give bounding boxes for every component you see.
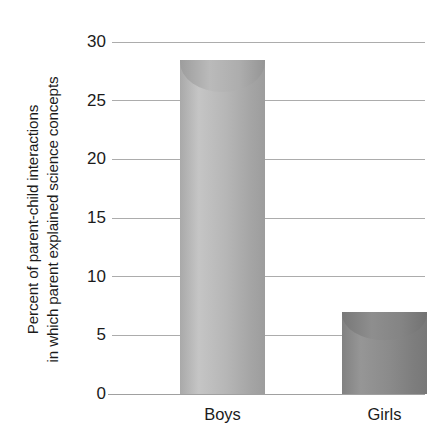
bar-shape: [342, 312, 427, 394]
y-tick-label: 25: [80, 92, 106, 109]
x-label-boys: Boys: [180, 404, 265, 424]
bar-boys: [180, 60, 265, 394]
gridline: [112, 218, 425, 219]
y-tick-label: 0: [80, 385, 106, 402]
gridline: [112, 100, 425, 101]
y-tick-label: 30: [80, 33, 106, 50]
gridline: [112, 159, 425, 160]
y-axis-title-line-2: in which parent explained science concep…: [43, 77, 62, 363]
bar-shape: [180, 60, 265, 394]
gridline: [112, 42, 425, 43]
y-tick-label: 5: [80, 326, 106, 343]
y-axis-title: Percent of parent-child interactions in …: [0, 0, 84, 439]
gridline: [112, 276, 425, 277]
plot-area: [112, 42, 425, 394]
y-tick-label: 15: [80, 209, 106, 226]
bar-girls: [342, 312, 427, 394]
bar-chart: Percent of parent-child interactions in …: [0, 0, 447, 439]
y-tick-label: 20: [80, 150, 106, 167]
x-label-girls: Girls: [342, 404, 427, 424]
y-axis-title-line-1: Percent of parent-child interactions: [23, 105, 42, 334]
y-axis-tick-labels: 051015202530: [78, 42, 106, 394]
y-tick-label: 10: [80, 268, 106, 285]
